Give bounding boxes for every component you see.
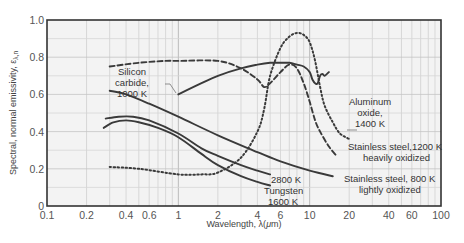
svg-text:1600 K: 1600 K <box>268 196 299 207</box>
svg-text:0.8: 0.8 <box>29 51 44 63</box>
svg-text:Stainless steel,1200 K: Stainless steel,1200 K <box>348 141 443 152</box>
svg-text:oxide,: oxide, <box>357 107 382 118</box>
svg-text:2800 K: 2800 K <box>271 174 302 185</box>
svg-text:Aluminum: Aluminum <box>349 96 391 107</box>
svg-text:40: 40 <box>383 209 395 221</box>
svg-text:1000 K: 1000 K <box>117 88 148 99</box>
svg-text:1.0: 1.0 <box>29 14 44 26</box>
svg-text:0.4: 0.4 <box>29 126 44 138</box>
svg-text:Tungsten: Tungsten <box>264 185 303 196</box>
svg-text:1: 1 <box>175 209 181 221</box>
svg-text:0.2: 0.2 <box>79 209 94 221</box>
emissivity-chart: 0.10.20.40.6124610204060100 00.20.40.60.… <box>0 0 464 243</box>
svg-text:heavily oxidized: heavily oxidized <box>363 152 430 163</box>
y-axis-label: Spectral, normal emissivity, ελ,n <box>8 51 19 175</box>
svg-text:0.6: 0.6 <box>29 88 44 100</box>
svg-text:0.2: 0.2 <box>29 163 44 175</box>
svg-text:10: 10 <box>304 209 316 221</box>
y-tick-labels: 00.20.40.60.81.0 <box>29 14 44 212</box>
x-axis-label: Wavelength, λ(μm) <box>206 219 281 229</box>
svg-text:lightly oxidized: lightly oxidized <box>359 184 421 195</box>
svg-text:0: 0 <box>38 200 44 212</box>
svg-text:Stainless steel, 800 K: Stainless steel, 800 K <box>344 173 436 184</box>
svg-text:0.4: 0.4 <box>119 209 134 221</box>
svg-text:100: 100 <box>432 209 450 221</box>
svg-text:20: 20 <box>343 209 355 221</box>
svg-text:carbide,: carbide, <box>115 77 149 88</box>
svg-text:Silicon: Silicon <box>118 66 146 77</box>
svg-text:0.6: 0.6 <box>142 209 157 221</box>
svg-text:1400 K: 1400 K <box>355 118 386 129</box>
annotation-stainless-1200: Stainless steel,1200 K heavily oxidized <box>348 141 443 163</box>
svg-text:60: 60 <box>406 209 418 221</box>
